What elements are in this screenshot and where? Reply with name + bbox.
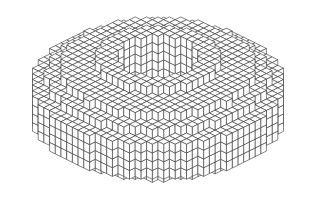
voxel-torus-render [0,0,310,214]
voxel-torus-graphic [0,0,310,214]
